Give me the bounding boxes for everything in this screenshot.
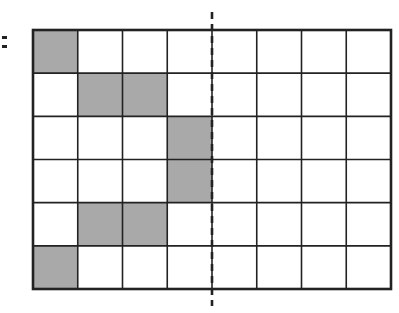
shaded-cell [78,73,123,116]
shaded-cell [167,116,212,159]
shaded-cell [33,30,78,73]
shaded-cell [33,246,78,289]
shaded-cell [123,73,168,116]
shaded-cell [123,203,168,246]
shaded-cell [167,160,212,203]
shaded-cell [78,203,123,246]
reflection-grid-diagram [0,0,399,313]
